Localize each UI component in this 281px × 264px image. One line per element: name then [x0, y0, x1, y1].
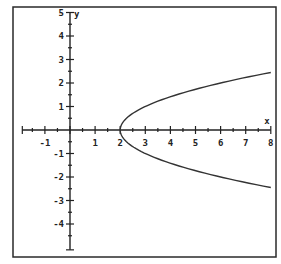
x-tick-label: 3 — [143, 138, 148, 148]
y-tick-label: -1 — [53, 149, 64, 159]
y-axis-label: y — [74, 9, 80, 19]
x-tick-label: 4 — [168, 138, 174, 148]
tick-labels: -11234567854321-1-2-3-4 — [39, 8, 273, 230]
x-tick-label: 7 — [243, 138, 248, 148]
x-tick-label: 1 — [92, 138, 97, 148]
x-axis-label: x — [264, 116, 270, 126]
x-tick-label: 5 — [193, 138, 198, 148]
y-tick-label: -4 — [53, 219, 64, 229]
y-tick-label: -3 — [53, 196, 64, 206]
y-tick-label: 2 — [59, 78, 64, 88]
x-tick-label: 2 — [117, 138, 122, 148]
y-tick-label: 5 — [59, 8, 64, 18]
y-tick-label: -2 — [53, 172, 64, 182]
x-tick-label: -1 — [39, 138, 50, 148]
x-tick-label: 6 — [218, 138, 223, 148]
parabola-plot: -11234567854321-1-2-3-4 x y — [0, 0, 281, 264]
x-tick-label: 8 — [268, 138, 273, 148]
y-tick-label: 4 — [59, 31, 65, 41]
tick-marks — [22, 13, 270, 250]
y-tick-label: 1 — [59, 102, 64, 112]
y-tick-label: 3 — [59, 55, 64, 65]
